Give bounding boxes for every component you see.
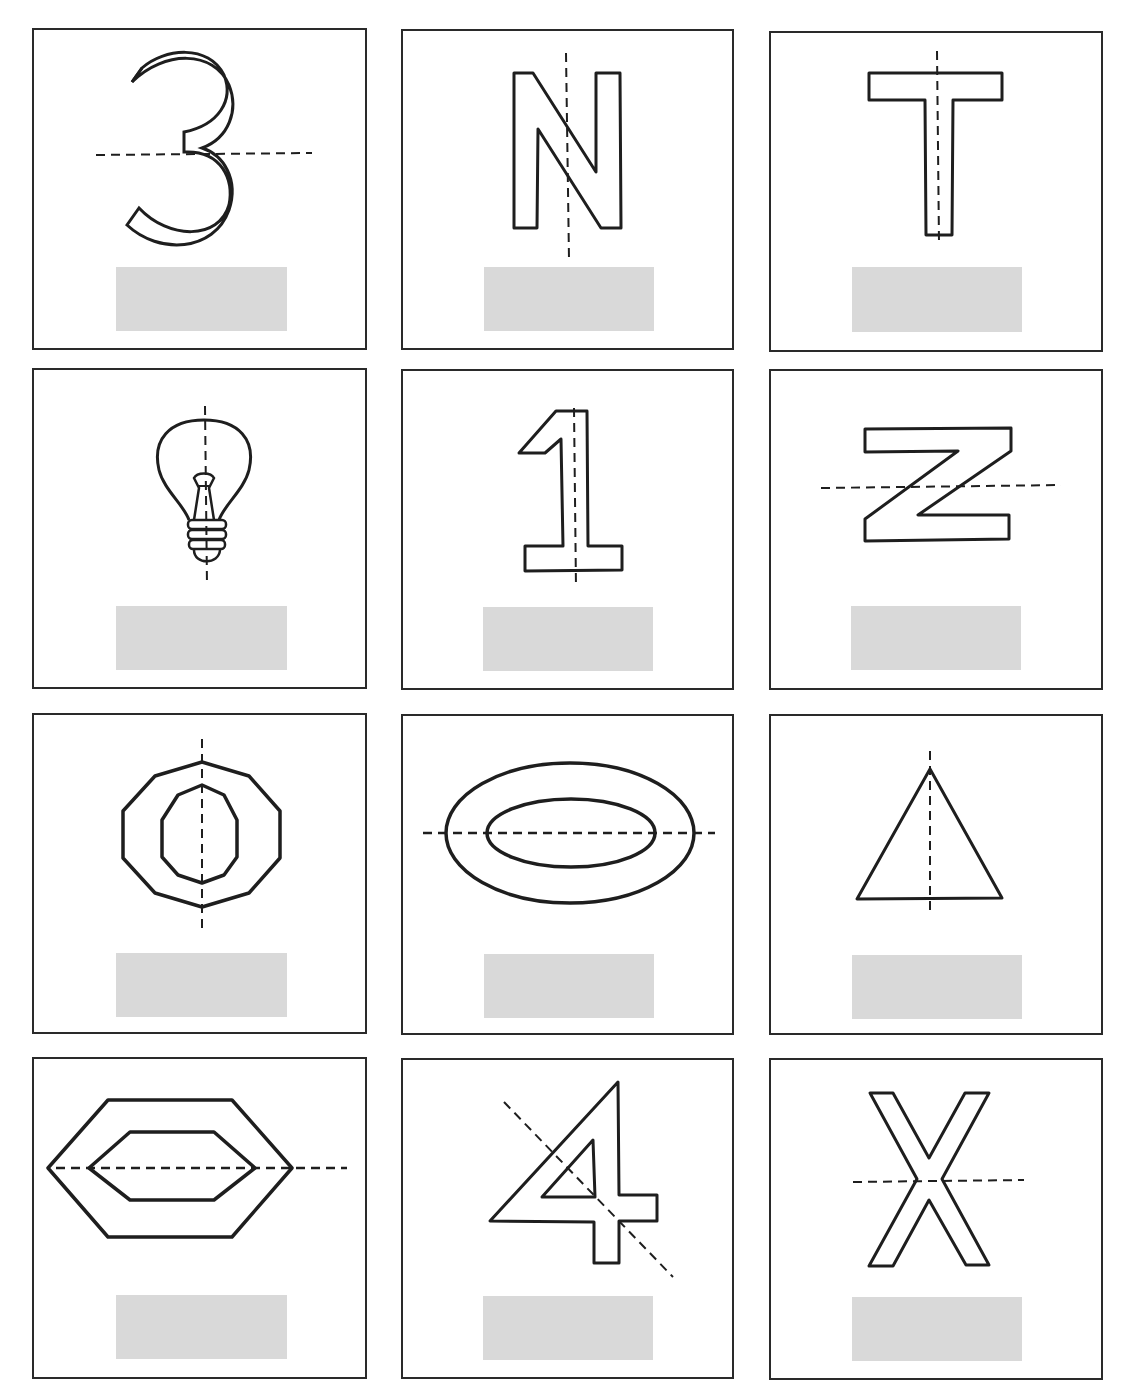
card-digit-4 <box>401 1058 734 1379</box>
card-digit-3 <box>32 28 367 350</box>
answer-box[interactable] <box>483 1296 653 1360</box>
card-triangle <box>769 714 1103 1035</box>
answer-box[interactable] <box>116 953 287 1017</box>
card-letter-x <box>769 1058 1103 1380</box>
answer-box[interactable] <box>483 607 653 671</box>
card-hexagon-ring <box>32 1057 367 1379</box>
answer-box[interactable] <box>852 267 1022 332</box>
card-ellipse-ring <box>401 714 734 1035</box>
card-decagon-ring <box>32 713 367 1034</box>
answer-box[interactable] <box>484 954 654 1018</box>
answer-box[interactable] <box>852 955 1022 1019</box>
card-digit-1 <box>401 369 734 690</box>
answer-box[interactable] <box>851 606 1021 670</box>
card-light-bulb <box>32 368 367 689</box>
answer-box[interactable] <box>852 1297 1022 1361</box>
card-letter-z <box>769 369 1103 690</box>
answer-box[interactable] <box>116 267 287 331</box>
card-letter-n <box>401 29 734 350</box>
answer-box[interactable] <box>116 606 287 670</box>
answer-box[interactable] <box>484 267 654 331</box>
answer-box[interactable] <box>116 1295 287 1359</box>
card-letter-t <box>769 31 1103 352</box>
